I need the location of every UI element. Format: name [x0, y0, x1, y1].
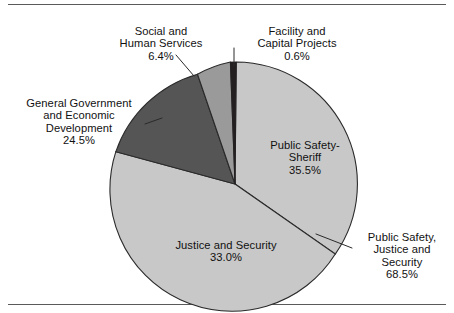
- slice-label-percent: 0.6%: [236, 50, 358, 63]
- slice-label-percent: 6.4%: [96, 50, 226, 63]
- aggregate-label-name: Public Safety, Justice and Security: [368, 231, 436, 268]
- slice-label-social-and-human-services: Social and Human Services 6.4%: [96, 12, 226, 75]
- slice-label-name: Justice and Security: [175, 239, 276, 251]
- slice-label-name: General Government and Economic Developm…: [26, 97, 131, 134]
- slice-label-name: Social and Human Services: [120, 25, 203, 50]
- pie-chart-figure: Social and Human Services 6.4% Facility …: [0, 0, 454, 313]
- slice-label-percent: 24.5%: [4, 134, 154, 147]
- slice-label-name: Facility and Capital Projects: [257, 25, 336, 50]
- slice-label-justice-and-security: Justice and Security 33.0%: [152, 226, 300, 276]
- slice-label-percent: 35.5%: [249, 164, 361, 177]
- slice-label-public-safety-sheriff: Public Safety- Sheriff 35.5%: [249, 126, 361, 189]
- aggregate-label-percent: 68.5%: [352, 268, 452, 281]
- slice-label-percent: 33.0%: [152, 251, 300, 264]
- aggregate-label-public-safety-justice-and-security: Public Safety, Justice and Security 68.5…: [352, 218, 452, 294]
- slice-label-general-government: General Government and Economic Developm…: [4, 84, 154, 160]
- slice-label-name: Public Safety- Sheriff: [270, 139, 340, 164]
- slice-label-facility-and-capital-projects: Facility and Capital Projects 0.6%: [236, 12, 358, 75]
